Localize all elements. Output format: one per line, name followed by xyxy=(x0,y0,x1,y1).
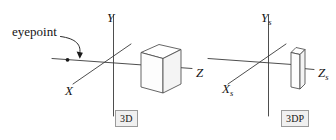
xs-axis-label: Xs xyxy=(221,81,234,98)
ys-axis-label-subscript: s xyxy=(268,17,272,27)
panel-3dp-geometry xyxy=(208,15,314,116)
eyepoint-leader-arrowhead xyxy=(77,52,83,59)
y-axis-label: Y xyxy=(107,10,116,25)
panel-tag-3dp: 3DP xyxy=(281,110,309,127)
x-axis-label: X xyxy=(64,83,74,98)
figure-root: eyepoint Y X Z Ys Xs Zs xyxy=(0,0,336,140)
zs-axis-line-left xyxy=(208,59,292,65)
panel-3d-geometry xyxy=(52,15,192,116)
panel-tag-3d: 3D xyxy=(115,110,138,127)
xs-axis-label-subscript: s xyxy=(230,88,234,98)
eyepoint-dot xyxy=(66,58,70,62)
cube-front-face xyxy=(141,53,163,94)
xs-axis-line xyxy=(228,44,286,84)
zs-axis-label: Zs xyxy=(318,65,329,82)
zs-axis-label-subscript: s xyxy=(325,72,329,82)
slab-front-face xyxy=(291,53,300,90)
eyepoint-label: eyepoint xyxy=(12,24,57,39)
ys-axis-label: Ys xyxy=(261,10,272,27)
slab-right-face xyxy=(300,50,305,90)
z-axis-label: Z xyxy=(196,65,204,80)
x-axis-line xyxy=(73,44,131,84)
